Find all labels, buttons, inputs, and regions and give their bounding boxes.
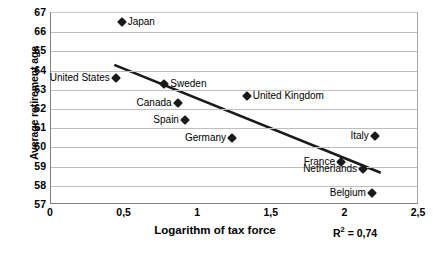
y-axis-tick-label: 64 [24,65,46,76]
y-axis-tick-label: 60 [24,141,46,152]
gridline [51,147,417,148]
data-point-marker[interactable] [370,131,380,141]
gridline [51,109,417,110]
data-point-marker[interactable] [367,189,377,199]
x-axis-title: Logarithm of tax force [50,224,380,236]
y-axis-tick-label: 61 [24,122,46,133]
y-axis-tick-label: 63 [24,84,46,95]
data-point-label: Sweden [170,79,206,89]
r-squared-exponent: 2 [341,225,345,234]
y-axis-tick-labels: 5758596061626364656667 [20,0,46,253]
y-axis-tick-label: 58 [24,180,46,191]
data-point-label: Canada [137,98,172,108]
x-axis-tick-label: 1,5 [263,207,278,218]
data-point-label: Italy [350,131,368,141]
gridline [51,90,417,91]
data-point-label: Spain [153,115,179,125]
y-axis-tick-label: 62 [24,103,46,114]
data-point-label: Belgium [330,188,366,198]
y-axis-tick-label: 65 [24,45,46,56]
y-axis-tick-label: 59 [24,161,46,172]
y-axis-tick-label: 57 [24,199,46,210]
data-point-label: Japan [128,17,155,27]
scatter-chart: Average retirement age 57585960616263646… [0,0,437,253]
y-axis-tick-label: 66 [24,26,46,37]
x-axis-tick-label: 2 [341,207,347,218]
plot-area: JapanUnited StatesSwedenCanadaUnited Kin… [50,12,418,204]
data-point-marker[interactable] [111,73,121,83]
gridline [51,51,417,52]
x-axis-tick-label: 1 [194,207,200,218]
data-point-label: United States [50,73,110,83]
x-axis-tick-label: 0,5 [116,207,131,218]
data-point-marker[interactable] [180,115,190,125]
gridline [51,32,417,33]
data-point-marker[interactable] [159,79,169,89]
r-squared-annotation: R2 = 0,74 [333,225,377,239]
x-axis-tick-labels: 00,511,522,5 [50,207,418,223]
y-axis-tick-label: 67 [24,7,46,18]
x-axis-tick-label: 0 [47,207,53,218]
data-point-label: Netherlands [303,164,357,174]
data-point-marker[interactable] [117,17,127,27]
data-point-marker[interactable] [227,133,237,143]
data-point-label: United Kingdom [253,91,324,101]
data-point-marker[interactable] [173,98,183,108]
data-point-label: Germany [185,133,226,143]
x-axis-tick-label: 2,5 [411,207,426,218]
data-point-marker[interactable] [242,91,252,101]
